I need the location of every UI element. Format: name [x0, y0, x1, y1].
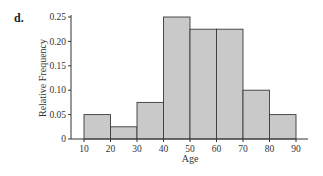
- bars-group: [84, 17, 296, 139]
- x-tick-label: 70: [238, 144, 248, 154]
- x-tick-label: 40: [159, 144, 169, 154]
- x-axis-title: Age: [182, 153, 199, 164]
- histogram-bar: [137, 102, 164, 139]
- histogram-bar: [190, 29, 217, 139]
- histogram-chart: 00.050.100.150.200.25102030405060708090 …: [0, 0, 323, 176]
- histogram-bar: [111, 127, 138, 139]
- y-tick-label: 0.25: [49, 12, 66, 22]
- y-tick-label: 0: [61, 134, 66, 144]
- histogram-bar: [164, 17, 191, 139]
- x-tick-label: 90: [291, 144, 301, 154]
- y-tick-label: 0.10: [49, 85, 66, 95]
- x-tick-label: 20: [106, 144, 116, 154]
- x-tick-label: 60: [212, 144, 222, 154]
- y-tick-label: 0.20: [49, 37, 66, 47]
- histogram-bar: [84, 115, 111, 139]
- y-tick-label: 0.05: [49, 110, 66, 120]
- histogram-bar: [217, 29, 244, 139]
- histogram-bar: [270, 115, 297, 139]
- histogram-bar: [243, 90, 270, 139]
- x-tick-label: 30: [132, 144, 142, 154]
- x-tick-label: 10: [79, 144, 89, 154]
- y-axis-title: Relative Frequency: [37, 39, 48, 117]
- y-tick-label: 0.15: [49, 61, 66, 71]
- x-tick-label: 80: [265, 144, 275, 154]
